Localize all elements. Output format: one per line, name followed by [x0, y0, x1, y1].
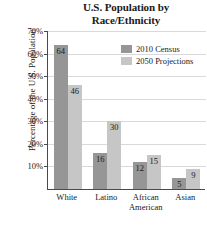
bar-value-label: 16 [93, 155, 107, 164]
y-axis-tick-label: 10% [27, 162, 43, 171]
x-axis-label-line: Latino [87, 192, 127, 202]
y-axis-tick-label: 60% [27, 49, 43, 58]
y-axis-tick [44, 54, 48, 55]
y-axis-tick [44, 99, 48, 100]
y-axis-tick [44, 166, 48, 167]
bar-value-label: 46 [68, 87, 82, 96]
legend-item[interactable]: 2010 Census [121, 44, 193, 54]
bar-value-label: 15 [147, 157, 161, 166]
bar: 5 [172, 178, 186, 189]
y-axis-tick [44, 144, 48, 145]
x-axis-label: White [47, 192, 87, 202]
legend-swatch-icon [121, 57, 132, 65]
bar: 30 [107, 121, 121, 189]
bar: 9 [186, 169, 200, 189]
y-axis-tick-label: 40% [27, 94, 43, 103]
bar-group: 1630 [93, 31, 121, 189]
chart-legend: 2010 Census2050 Projections [121, 44, 193, 68]
x-axis-label: Latino [87, 192, 127, 202]
y-axis-tick [44, 76, 48, 77]
bar-value-label: 30 [107, 123, 121, 132]
bar-value-label: 5 [172, 180, 186, 189]
x-axis-label: Asian [166, 192, 206, 202]
x-axis-label-line: Asian [166, 192, 206, 202]
y-axis-tick-label: 20% [27, 140, 43, 149]
legend-swatch-icon [121, 45, 132, 53]
x-axis-label-line: American [126, 202, 166, 212]
x-axis-label: AfricanAmerican [126, 192, 166, 212]
y-axis-tick-label: 30% [27, 117, 43, 126]
bar-value-label: 64 [54, 47, 68, 56]
y-axis-tick [44, 31, 48, 32]
bar: 12 [133, 162, 147, 189]
bar-value-label: 12 [133, 164, 147, 173]
chart-title-line-1: U.S. Population by [47, 1, 205, 14]
x-axis-label-line: White [47, 192, 87, 202]
y-axis-tick [44, 121, 48, 122]
bar: 16 [93, 153, 107, 189]
y-axis-tick-label: 50% [27, 72, 43, 81]
y-axis-tick-label: 70% [27, 27, 43, 36]
bar: 46 [68, 85, 82, 189]
legend-label: 2050 Projections [136, 57, 193, 66]
legend-item[interactable]: 2050 Projections [121, 56, 193, 66]
chart-title: U.S. Population by Race/Ethnicity [47, 1, 205, 26]
bar-group: 6446 [54, 31, 82, 189]
chart-title-line-2: Race/Ethnicity [47, 14, 205, 27]
legend-label: 2010 Census [136, 45, 180, 54]
bar: 64 [54, 45, 68, 189]
x-axis-label-line: African [126, 192, 166, 202]
bar-value-label: 9 [186, 171, 200, 180]
chart-container: U.S. Population by Race/Ethnicity Percen… [0, 0, 207, 226]
bar: 15 [147, 155, 161, 189]
